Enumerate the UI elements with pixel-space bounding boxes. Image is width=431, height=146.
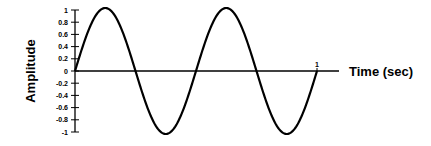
x-tick-label: 1 bbox=[315, 61, 319, 68]
y-tick-label: 0.6 bbox=[58, 31, 68, 38]
y-tick-label: -0.2 bbox=[56, 80, 68, 87]
y-tick-label: -1 bbox=[62, 129, 68, 136]
y-tick-label: 0 bbox=[64, 68, 68, 75]
y-tick-label: 1 bbox=[64, 7, 68, 14]
x-axis-title: Time (sec) bbox=[349, 64, 413, 79]
y-tick-label: -0.8 bbox=[56, 116, 68, 123]
x-axis: 1 bbox=[75, 61, 339, 71]
y-axis-title: Amplitude bbox=[23, 39, 38, 103]
y-tick-label: 0.4 bbox=[58, 43, 68, 50]
chart-svg: 10.80.60.40.20-0.2-0.4-0.6-0.8-1 1 Time … bbox=[0, 0, 431, 146]
y-tick-label: -0.6 bbox=[56, 104, 68, 111]
y-tick-label: 0.2 bbox=[58, 55, 68, 62]
y-tick-label: 0.8 bbox=[58, 19, 68, 26]
y-tick-label: -0.4 bbox=[56, 92, 68, 99]
